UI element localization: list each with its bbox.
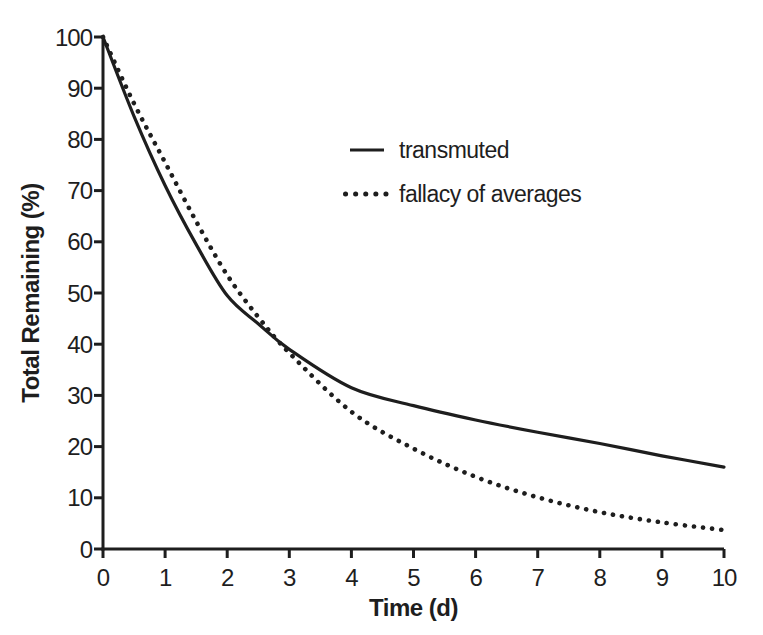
plot-area: 0102030405060708090100012345678910 xyxy=(0,0,763,635)
legend-item-transmuted: transmuted xyxy=(343,136,581,164)
dotted-line-icon xyxy=(343,188,392,200)
y-tick-label: 0 xyxy=(80,536,93,563)
x-axis-title: Time (d) xyxy=(103,594,724,622)
x-tick-label: 4 xyxy=(345,564,358,591)
decay-comparison-figure: 0102030405060708090100012345678910 Time … xyxy=(0,0,763,635)
x-tick-label: 8 xyxy=(594,564,607,591)
x-tick-label: 0 xyxy=(97,564,110,591)
y-tick-label: 60 xyxy=(67,228,92,255)
legend-label-transmuted: transmuted xyxy=(399,137,509,164)
x-tick-label: 1 xyxy=(159,564,172,591)
y-axis-title: Total Remaining (%) xyxy=(17,183,45,402)
legend: transmuted fallacy of averages xyxy=(343,136,581,208)
x-tick-label: 5 xyxy=(407,564,420,591)
legend-label-fallacy-of-averages: fallacy of averages xyxy=(399,181,581,208)
legend-item-fallacy-of-averages: fallacy of averages xyxy=(343,180,581,208)
y-tick-label: 80 xyxy=(67,126,92,153)
y-tick-label: 30 xyxy=(67,382,92,409)
series-curve-fallacy-of-averages xyxy=(103,37,724,530)
x-tick-label: 2 xyxy=(221,564,234,591)
x-tick-label: 6 xyxy=(469,564,482,591)
y-tick-label: 90 xyxy=(67,75,92,102)
y-tick-label: 70 xyxy=(67,177,92,204)
y-tick-label: 100 xyxy=(55,24,93,51)
x-tick-label: 3 xyxy=(283,564,296,591)
x-tick-label: 9 xyxy=(656,564,669,591)
x-tick-label: 10 xyxy=(712,564,737,591)
series-curve-transmuted xyxy=(103,37,724,467)
y-tick-label: 20 xyxy=(67,433,92,460)
y-tick-label: 50 xyxy=(67,280,92,307)
solid-line-icon xyxy=(343,144,392,156)
y-tick-label: 40 xyxy=(67,331,92,358)
y-tick-label: 10 xyxy=(67,484,92,511)
x-tick-label: 7 xyxy=(532,564,545,591)
